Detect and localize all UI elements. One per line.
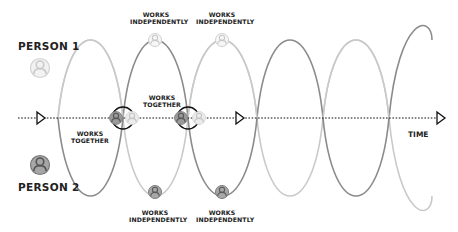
person1-avatar-together-2 xyxy=(193,112,206,125)
person1-label: PERSON 1 xyxy=(18,40,80,52)
annotation-mid-upper: WORKS TOGETHER xyxy=(137,94,187,108)
annotation-line: WORKS xyxy=(196,209,248,216)
person2-avatar-independent-2 xyxy=(216,186,229,199)
annotation-line: WORKS xyxy=(196,11,248,18)
annotation-top-left: WORKS INDEPENDENTLY xyxy=(130,11,182,25)
annotation-line: WORKS xyxy=(137,94,187,101)
annotation-bottom-left: WORKS INDEPENDENTLY xyxy=(129,209,181,223)
annotation-line: WORKS xyxy=(130,11,182,18)
arrow-start-icon xyxy=(37,112,45,124)
annotation-line: WORKS xyxy=(129,209,181,216)
annotation-line: TOGETHER xyxy=(65,137,115,144)
annotation-line: WORKS xyxy=(65,130,115,137)
collaboration-wave-diagram xyxy=(0,0,458,232)
annotation-mid-lower: WORKS TOGETHER xyxy=(65,130,115,144)
person1-wave-start xyxy=(388,26,432,118)
arrow-mid-icon xyxy=(236,112,244,124)
arrow-end-icon xyxy=(437,112,445,124)
person2-avatar-together-2 xyxy=(175,112,188,125)
person1-avatar-together-1 xyxy=(126,112,139,125)
annotation-line: INDEPENDENTLY xyxy=(129,216,181,223)
person2-label: PERSON 2 xyxy=(18,181,80,193)
annotation-line: INDEPENDENTLY xyxy=(196,18,248,25)
annotation-top-right: WORKS INDEPENDENTLY xyxy=(196,11,248,25)
person1-legend-avatar xyxy=(31,59,50,78)
annotation-line: INDEPENDENTLY xyxy=(196,216,248,223)
person2-avatar-together-1 xyxy=(110,112,123,125)
person1-avatar-independent-1 xyxy=(149,34,162,47)
annotation-line: INDEPENDENTLY xyxy=(130,18,182,25)
person2-legend-avatar xyxy=(31,156,50,175)
annotation-bottom-right: WORKS INDEPENDENTLY xyxy=(196,209,248,223)
time-axis-label: TIME xyxy=(408,131,429,140)
annotation-line: TOGETHER xyxy=(137,101,187,108)
person1-avatar-independent-2 xyxy=(216,34,229,47)
person2-avatar-independent-1 xyxy=(149,186,162,199)
